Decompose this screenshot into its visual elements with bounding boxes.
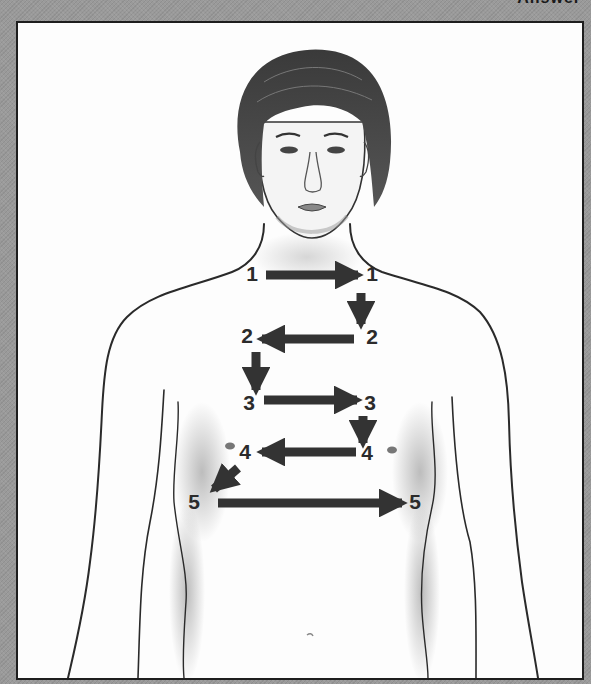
step-5-end-label: 5 [409, 491, 421, 512]
torso-illustration [18, 23, 582, 678]
step-1-end-label: 1 [366, 263, 378, 284]
head [237, 49, 391, 238]
sequence-arrows [214, 275, 402, 503]
step-5-start-label: 5 [188, 491, 200, 512]
step-3-start-label: 3 [243, 392, 255, 413]
step-1-start-label: 1 [246, 263, 258, 284]
step-3-end-label: 3 [364, 392, 376, 413]
step-4-start-label: 4 [361, 442, 373, 463]
cut-off-heading: Answer [517, 0, 581, 6]
step-2-start-label: 2 [366, 326, 378, 347]
illustration-frame: 1 1 2 2 3 3 4 4 5 5 [16, 21, 584, 680]
anatomy-marks [225, 443, 397, 637]
step-2-end-label: 2 [241, 325, 253, 346]
step-4-end-label: 4 [239, 441, 251, 462]
